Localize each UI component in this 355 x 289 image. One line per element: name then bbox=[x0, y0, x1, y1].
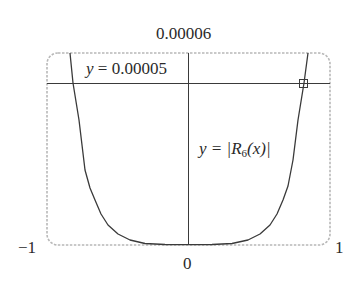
hline-label-var: y bbox=[86, 59, 94, 78]
x-max-tick-label: 1 bbox=[335, 239, 344, 256]
curve-label-prefix: y = | bbox=[199, 139, 231, 158]
hline-label-value: = 0.00005 bbox=[94, 59, 167, 78]
curve-label-func: R bbox=[231, 139, 241, 158]
plot-area bbox=[0, 0, 355, 289]
curve-label: y = |R6(x)| bbox=[197, 140, 273, 159]
horizontal-line-label: y = 0.00005 bbox=[84, 60, 169, 77]
y-max-tick-label: 0.00006 bbox=[156, 25, 211, 42]
x-min-tick-label: −1 bbox=[18, 239, 36, 256]
curve-label-suffix: (x)| bbox=[247, 139, 271, 158]
x-origin-tick-label: 0 bbox=[183, 255, 192, 272]
